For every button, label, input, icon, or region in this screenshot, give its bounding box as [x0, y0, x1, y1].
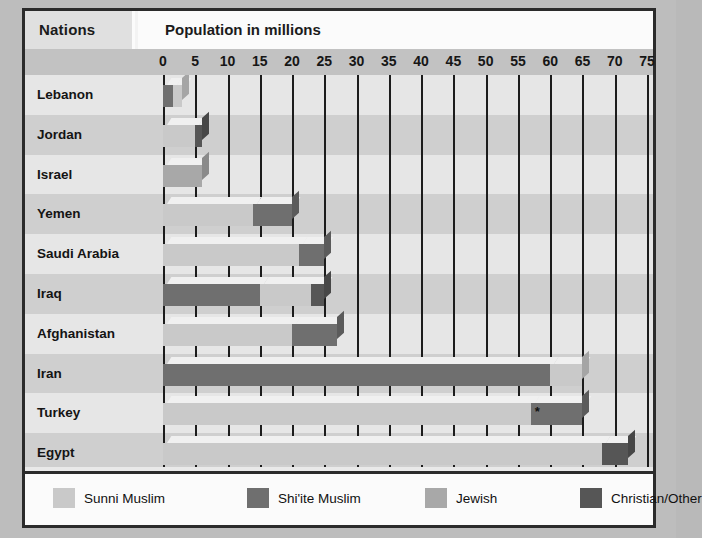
segment-face — [253, 204, 292, 226]
segment-face — [195, 125, 201, 147]
segment-face — [163, 284, 260, 306]
segment-side — [182, 75, 189, 100]
segment-face — [173, 85, 183, 107]
axis-tick-label: 45 — [446, 53, 462, 69]
axis-tick-label: 65 — [575, 53, 591, 69]
bar-segment — [260, 284, 312, 306]
nation-label: Saudi Arabia — [37, 246, 119, 261]
axis-tick-band: 051015202530354045505560657075 — [25, 49, 653, 75]
bar-segment — [311, 284, 324, 306]
segment-face — [163, 443, 602, 465]
legend-swatch-icon — [53, 488, 75, 508]
asterisk-marker: * — [535, 405, 540, 418]
axis-tick-label: 50 — [478, 53, 494, 69]
segment-top — [167, 436, 610, 443]
segment-top — [167, 357, 559, 364]
bar-segment: * — [531, 403, 583, 425]
nation-label: Iraq — [37, 286, 62, 301]
bar-segment — [550, 364, 582, 386]
segment-top — [167, 197, 262, 204]
axis-tick-label: 60 — [542, 53, 558, 69]
header-population-label: Population in millions — [165, 21, 321, 38]
axis-tick-label: 55 — [510, 53, 526, 69]
axis-tick-label: 5 — [191, 53, 199, 69]
legend-item[interactable]: Jewish — [425, 488, 497, 508]
header-population-cell: Population in millions — [138, 11, 653, 49]
legend-swatch-icon — [425, 488, 447, 508]
legend-item[interactable]: Sunni Muslim — [53, 488, 165, 508]
legend-item[interactable]: Shi'ite Muslim — [247, 488, 361, 508]
segment-face — [260, 284, 312, 306]
segment-side — [337, 310, 344, 338]
legend-label: Sunni Muslim — [84, 491, 165, 506]
segment-face — [163, 403, 531, 425]
bar-segment — [163, 324, 292, 346]
legend-label: Jewish — [456, 491, 497, 506]
segment-top — [167, 396, 539, 403]
segment-face — [299, 244, 325, 266]
nation-label: Turkey — [37, 405, 80, 420]
header-nations-cell: Nations — [25, 11, 135, 49]
segment-face — [602, 443, 628, 465]
segment-face — [292, 324, 337, 346]
legend-label: Christian/Other — [611, 491, 702, 506]
segment-face — [550, 364, 582, 386]
bar-segment — [299, 244, 325, 266]
segment-side — [292, 191, 299, 219]
gridline — [615, 75, 617, 467]
nation-label: Jordan — [37, 127, 82, 142]
chart-legend: Sunni MuslimShi'ite MuslimJewishChristia… — [25, 471, 653, 525]
segment-face — [163, 165, 202, 187]
bar-segment — [253, 204, 292, 226]
axis-tick-label: 40 — [413, 53, 429, 69]
bar-segment — [163, 244, 299, 266]
bar-segment — [173, 85, 183, 107]
segment-face — [163, 364, 550, 386]
nation-label: Lebanon — [37, 87, 93, 102]
bar-segment — [195, 125, 201, 147]
segment-face — [163, 324, 292, 346]
bar-segment — [163, 204, 253, 226]
segment-top — [167, 317, 300, 324]
bar-segment — [292, 324, 337, 346]
axis-tick-label: 20 — [284, 53, 300, 69]
axis-tick-label: 70 — [607, 53, 623, 69]
nation-label: Israel — [37, 167, 72, 182]
segment-side — [324, 231, 331, 259]
plot-body: LebanonJordanIsraelYemenSaudi ArabiaIraq… — [25, 75, 653, 467]
segment-face — [163, 204, 253, 226]
bar-segment — [163, 284, 260, 306]
segment-top — [167, 118, 204, 125]
segment-face — [163, 125, 195, 147]
axis-tick-label: 75 — [639, 53, 655, 69]
bar-segment — [163, 165, 202, 187]
segment-top — [167, 237, 307, 244]
nation-label-column: LebanonJordanIsraelYemenSaudi ArabiaIraq… — [25, 75, 135, 467]
plot-area: * — [135, 75, 653, 467]
axis-tick-label: 0 — [159, 53, 167, 69]
bar-segment — [602, 443, 628, 465]
segment-face — [163, 85, 173, 107]
legend-item[interactable]: Christian/Other — [580, 488, 702, 508]
axis-tick-label: 35 — [381, 53, 397, 69]
legend-label: Shi'ite Muslim — [278, 491, 361, 506]
legend-swatch-icon — [247, 488, 269, 508]
segment-face — [311, 284, 324, 306]
segment-face — [163, 244, 299, 266]
segment-side — [324, 271, 331, 299]
nation-label: Afghanistan — [37, 326, 115, 341]
segment-side — [582, 350, 589, 378]
bar-segment — [163, 85, 173, 107]
nation-label: Yemen — [37, 206, 81, 221]
chart-header: Nations Population in millions — [25, 11, 653, 49]
segment-side — [202, 111, 209, 139]
legend-swatch-icon — [580, 488, 602, 508]
header-nations-label: Nations — [39, 21, 95, 38]
nation-label: Iran — [37, 366, 62, 381]
bar-segment — [163, 443, 602, 465]
segment-side — [628, 430, 635, 458]
segment-top — [264, 277, 320, 284]
segment-side — [202, 151, 209, 179]
axis-tick-label: 30 — [349, 53, 365, 69]
